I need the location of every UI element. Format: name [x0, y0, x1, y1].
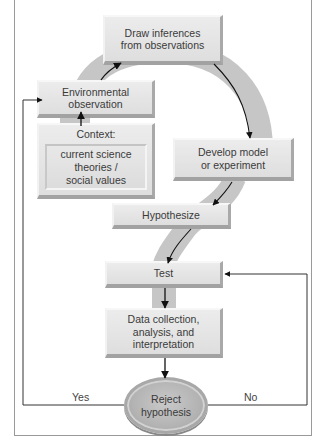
connector-layer: [0, 0, 323, 447]
edge-label-yes: Yes: [72, 391, 89, 403]
edge-label-no: No: [244, 391, 257, 403]
